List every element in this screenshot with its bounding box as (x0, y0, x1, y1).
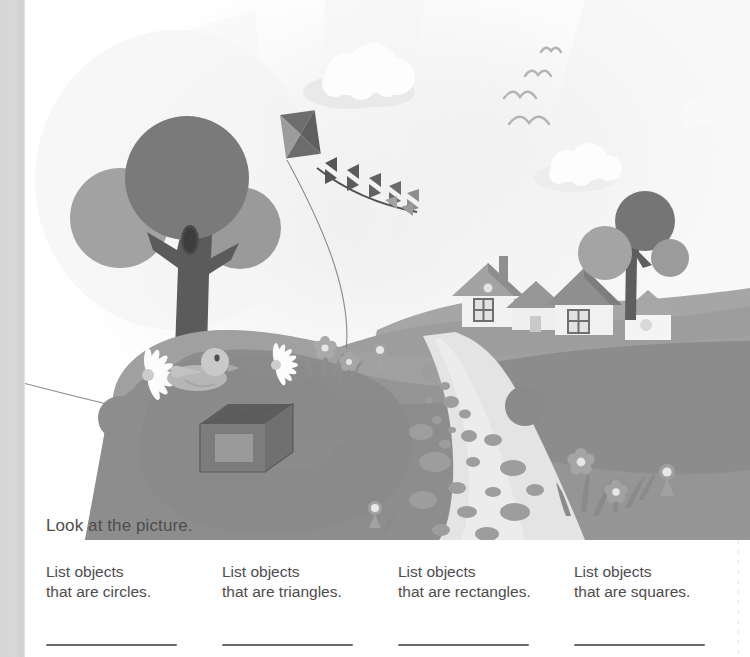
answer-rule-circles[interactable] (46, 644, 177, 646)
prompt-circles: List objects that are circles. (46, 562, 222, 602)
prompt-column-rectangles: List objects that are rectangles. (398, 562, 574, 602)
foliage-light (651, 239, 689, 277)
kite (280, 110, 321, 158)
prompt-column-circles: List objects that are circles. (46, 562, 222, 602)
answer-rule-squares[interactable] (574, 644, 705, 646)
worksheet-page: Look at the picture. List objects that a… (0, 0, 750, 657)
prompt-triangles: List objects that are triangles. (222, 562, 398, 602)
scene-illustration (25, 0, 750, 540)
answer-line-row (46, 644, 750, 646)
page-edge-strip (0, 0, 25, 657)
window-right (568, 310, 589, 333)
prompt-squares-line2: that are squares. (574, 583, 690, 600)
answer-slot-circles[interactable] (46, 644, 222, 646)
prompt-rectangles-line2: that are rectangles. (398, 583, 531, 600)
answer-slot-triangles[interactable] (222, 644, 398, 646)
instruction-text: Look at the picture. (46, 516, 746, 536)
prompt-rectangles-line1: List objects (398, 563, 476, 580)
answer-rule-triangles[interactable] (222, 644, 353, 646)
prompt-squares-line1: List objects (574, 563, 652, 580)
window-left (474, 299, 493, 321)
prompt-column-squares: List objects that are squares. (574, 562, 750, 602)
ball (505, 386, 545, 426)
answer-rule-rectangles[interactable] (398, 644, 529, 646)
foliage-dark (125, 116, 249, 240)
prompt-circles-line2: that are circles. (46, 583, 151, 600)
prompt-columns: List objects that are circles. List obje… (46, 562, 750, 602)
prompt-squares: List objects that are squares. (574, 562, 750, 602)
door (530, 316, 541, 332)
prompt-rectangles: List objects that are rectangles. (398, 562, 574, 602)
prompt-triangles-line2: that are triangles. (222, 583, 342, 600)
prompt-triangles-line1: List objects (222, 563, 300, 580)
instruction-block: Look at the picture. (46, 516, 746, 536)
answer-slot-squares[interactable] (574, 644, 750, 646)
chimney (499, 256, 508, 282)
answer-slot-rectangles[interactable] (398, 644, 574, 646)
prompt-circles-line1: List objects (46, 563, 124, 580)
prompt-column-triangles: List objects that are triangles. (222, 562, 398, 602)
foliage-light (578, 226, 632, 280)
